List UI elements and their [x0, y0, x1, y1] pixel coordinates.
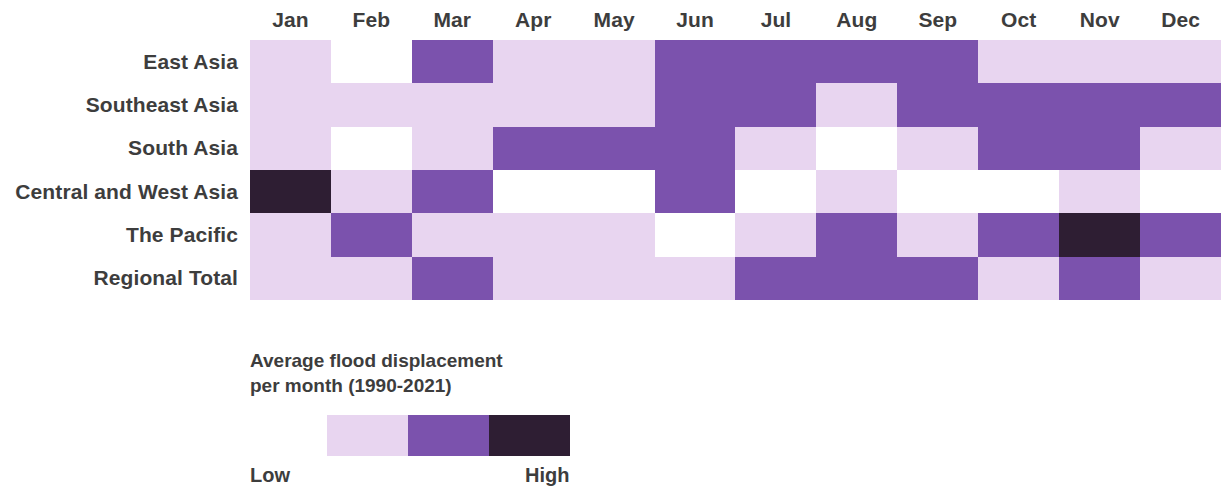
heatmap-cell: [250, 170, 331, 213]
heatmap-cell: [412, 83, 493, 126]
heatmap-cell: [897, 170, 978, 213]
region-label-south-asia: South Asia: [0, 127, 240, 170]
legend: Average flood displacement per month (19…: [250, 348, 810, 490]
month-header-dec: Dec: [1140, 0, 1221, 40]
heatmap-cell: [1140, 170, 1221, 213]
heatmap-cell: [978, 257, 1059, 300]
heatmap-cell: [897, 40, 978, 83]
heatmap-cell: [331, 257, 412, 300]
heatmap-cell: [978, 83, 1059, 126]
heatmap-cell: [816, 213, 897, 256]
heatmap-cell: [331, 170, 412, 213]
heatmap-cell: [331, 40, 412, 83]
heatmap-cell: [493, 170, 574, 213]
legend-swatch-1: [327, 415, 408, 456]
heatmap-cell: [331, 127, 412, 170]
heatmap-cell: [331, 83, 412, 126]
heatmap-cell: [816, 170, 897, 213]
heatmap-cell: [574, 40, 655, 83]
heatmap-cell: [655, 127, 736, 170]
month-header-mar: Mar: [412, 0, 493, 40]
region-label-column: East AsiaSoutheast AsiaSouth AsiaCentral…: [0, 40, 240, 300]
heatmap-cell: [735, 127, 816, 170]
heatmap-figure: JanFebMarAprMayJunJulAugSepOctNovDec Eas…: [0, 0, 1221, 310]
heatmap-cell: [412, 257, 493, 300]
month-header-aug: Aug: [816, 0, 897, 40]
heatmap-cell: [897, 213, 978, 256]
heatmap-cell: [897, 83, 978, 126]
heatmap-cell: [1140, 213, 1221, 256]
heatmap-cell: [816, 83, 897, 126]
month-header-apr: Apr: [493, 0, 574, 40]
legend-high-label: High: [525, 464, 569, 487]
month-header-may: May: [574, 0, 655, 40]
month-header-sep: Sep: [897, 0, 978, 40]
heatmap-cell: [655, 257, 736, 300]
heatmap-cell: [978, 127, 1059, 170]
heatmap-cell: [735, 40, 816, 83]
heatmap-cell: [1059, 257, 1140, 300]
region-label-the-pacific: The Pacific: [0, 213, 240, 256]
month-header-jul: Jul: [736, 0, 817, 40]
heatmap-cell: [978, 170, 1059, 213]
month-header-nov: Nov: [1059, 0, 1140, 40]
heatmap-cell: [250, 257, 331, 300]
heatmap-cell: [493, 40, 574, 83]
heatmap-cell: [493, 127, 574, 170]
heatmap-cell: [412, 127, 493, 170]
heatmap-grid: [250, 40, 1221, 300]
heatmap-cell: [655, 40, 736, 83]
heatmap-cell: [412, 40, 493, 83]
region-label-east-asia: East Asia: [0, 40, 240, 83]
heatmap-cell: [816, 257, 897, 300]
legend-low-label: Low: [250, 464, 290, 487]
heatmap-cell: [897, 127, 978, 170]
heatmap-cell: [1140, 83, 1221, 126]
heatmap-cell: [978, 213, 1059, 256]
heatmap-cell: [655, 83, 736, 126]
heatmap-cell: [574, 83, 655, 126]
heatmap-cell: [250, 127, 331, 170]
region-label-southeast-asia: Southeast Asia: [0, 83, 240, 126]
heatmap-cell: [1140, 127, 1221, 170]
heatmap-cell: [816, 127, 897, 170]
month-header-oct: Oct: [978, 0, 1059, 40]
heatmap-cell: [412, 170, 493, 213]
heatmap-cell: [574, 257, 655, 300]
heatmap-cell: [978, 40, 1059, 83]
heatmap-cell: [493, 257, 574, 300]
heatmap-cell: [493, 83, 574, 126]
heatmap-cell: [1059, 213, 1140, 256]
heatmap-cell: [250, 40, 331, 83]
region-label-regional-total: Regional Total: [0, 257, 240, 300]
heatmap-cell: [735, 213, 816, 256]
heatmap-cell: [1059, 40, 1140, 83]
region-label-central-and-west-asia: Central and West Asia: [0, 170, 240, 213]
legend-swatch-2: [408, 415, 489, 456]
heatmap-cell: [735, 83, 816, 126]
month-header-jun: Jun: [655, 0, 736, 40]
legend-title-line-2: per month (1990-2021): [250, 373, 580, 398]
heatmap-cell: [331, 213, 412, 256]
heatmap-cell: [1140, 40, 1221, 83]
month-header-row: JanFebMarAprMayJunJulAugSepOctNovDec: [250, 0, 1221, 40]
heatmap-cell: [250, 83, 331, 126]
heatmap-cell: [1059, 127, 1140, 170]
heatmap-cell: [655, 170, 736, 213]
legend-title-line-1: Average flood displacement: [250, 348, 580, 373]
heatmap-cell: [816, 40, 897, 83]
heatmap-cell: [1140, 257, 1221, 300]
month-header-feb: Feb: [331, 0, 412, 40]
heatmap-cell: [735, 257, 816, 300]
heatmap-cell: [250, 213, 331, 256]
legend-color-bar: [327, 415, 570, 456]
heatmap-cell: [655, 213, 736, 256]
heatmap-cell: [897, 257, 978, 300]
heatmap-cell: [1059, 170, 1140, 213]
heatmap-cell: [574, 127, 655, 170]
heatmap-cell: [412, 213, 493, 256]
heatmap-cell: [1059, 83, 1140, 126]
legend-title: Average flood displacement per month (19…: [250, 348, 580, 398]
heatmap-cell: [574, 213, 655, 256]
heatmap-cell: [493, 213, 574, 256]
